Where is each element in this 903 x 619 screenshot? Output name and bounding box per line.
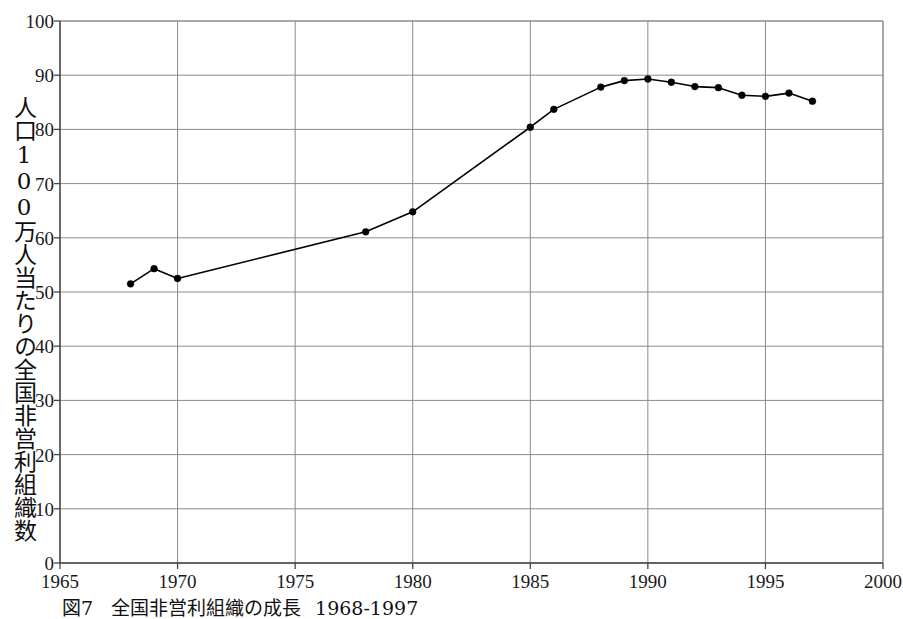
data-point-markers — [127, 76, 816, 288]
caption-number: 図7 — [62, 597, 93, 619]
y-tick-80: 80 — [8, 120, 54, 139]
caption-years: 1968-1997 — [315, 597, 418, 619]
x-tick-1965: 1965 — [20, 572, 100, 591]
x-tick-1980: 1980 — [373, 572, 453, 591]
x-tick-1990: 1990 — [608, 572, 688, 591]
x-tick-1970: 1970 — [138, 572, 218, 591]
caption-text: 全国非営利組織の成長 — [111, 597, 301, 619]
axis-tick-marks — [54, 21, 883, 569]
x-axis-tick-labels: 19651970197519801985199019952000 — [0, 572, 903, 600]
x-tick-1975: 1975 — [255, 572, 335, 591]
y-tick-100: 100 — [8, 12, 54, 31]
figure-caption: 図7全国非営利組織の成長1968-1997 — [62, 597, 418, 619]
y-tick-20: 20 — [8, 446, 54, 465]
y-tick-50: 50 — [8, 283, 54, 302]
data-line-series — [131, 79, 813, 284]
x-tick-2000: 2000 — [843, 572, 903, 591]
y-tick-30: 30 — [8, 391, 54, 410]
gridlines — [60, 21, 883, 563]
y-tick-40: 40 — [8, 337, 54, 356]
y-axis-tick-labels: 0102030405060708090100 — [0, 0, 54, 615]
x-tick-1995: 1995 — [725, 572, 805, 591]
y-tick-60: 60 — [8, 229, 54, 248]
y-tick-10: 10 — [8, 500, 54, 519]
y-tick-90: 90 — [8, 66, 54, 85]
y-tick-70: 70 — [8, 175, 54, 194]
x-tick-1985: 1985 — [490, 572, 570, 591]
